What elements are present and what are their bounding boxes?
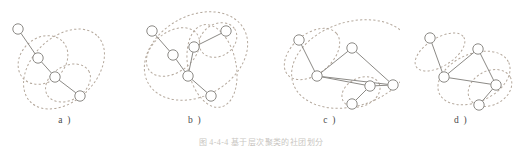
graph-canvas-a	[0, 0, 130, 120]
graph-edge	[59, 80, 76, 93]
graph-node	[425, 33, 435, 43]
graph-canvas-b	[130, 0, 260, 120]
graph-edge	[356, 51, 389, 81]
graph-node	[347, 43, 357, 53]
graph-node	[147, 26, 157, 36]
graph-node	[168, 50, 178, 60]
subfigure-label-d: d )	[400, 114, 522, 126]
graph-edge	[301, 45, 314, 72]
subfigure-c: c )	[260, 0, 400, 120]
graph-edge	[375, 85, 388, 86]
graph-canvas-d	[400, 0, 522, 120]
graph-edge	[155, 35, 169, 51]
cluster-boundary	[192, 16, 243, 65]
cluster-boundary	[462, 62, 519, 114]
graph-node	[474, 100, 484, 110]
graph-node	[491, 80, 501, 90]
subfigure-label-a: a )	[0, 114, 130, 126]
graph-node	[365, 81, 375, 91]
graph-node	[33, 53, 43, 63]
cluster-boundary	[280, 5, 400, 120]
graph-node	[206, 91, 216, 101]
graph-node	[50, 72, 60, 82]
node-group	[147, 26, 231, 101]
cluster-boundary	[130, 0, 260, 118]
cluster-boundary	[409, 25, 471, 78]
graph-node	[75, 91, 85, 101]
graph-edge	[189, 52, 193, 71]
graph-edge	[432, 43, 442, 72]
subfigure-d: d )	[400, 0, 522, 120]
figure-root: a )b )c )d )	[0, 0, 522, 146]
cluster-group	[8, 13, 120, 120]
graph-node	[439, 72, 449, 82]
graph-node	[13, 24, 23, 34]
graph-edge	[356, 90, 367, 101]
graph-edge	[480, 54, 493, 81]
subfigure-a: a )	[0, 0, 130, 120]
subfigure-b: b )	[130, 0, 260, 120]
graph-node	[294, 35, 304, 45]
cluster-boundary	[8, 13, 120, 120]
edge-group	[21, 33, 76, 93]
graph-node	[473, 44, 483, 54]
graph-node	[189, 42, 199, 52]
graph-node	[183, 71, 193, 81]
graph-canvas-c	[260, 0, 400, 120]
subfigure-label-b: b )	[130, 114, 260, 126]
graph-edge	[199, 33, 222, 44]
cluster-group	[275, 5, 400, 120]
figure-caption: 图 4-4-4 基于层次聚类的社团划分	[0, 136, 522, 146]
cluster-boundary	[337, 71, 385, 113]
graph-edge	[449, 78, 491, 84]
graph-edge	[321, 51, 348, 73]
graph-node	[221, 26, 231, 36]
graph-edge	[482, 89, 492, 101]
cluster-group	[130, 0, 260, 118]
graph-node	[312, 71, 322, 81]
subfigure-label-c: c )	[260, 114, 400, 126]
graph-node	[388, 80, 398, 90]
node-group	[294, 35, 398, 109]
graph-edge	[21, 33, 35, 53]
cluster-boundary	[275, 18, 350, 90]
graph-node	[347, 99, 357, 109]
graph-edge	[192, 79, 207, 92]
graph-edge	[176, 59, 185, 72]
graph-edge	[41, 62, 51, 73]
